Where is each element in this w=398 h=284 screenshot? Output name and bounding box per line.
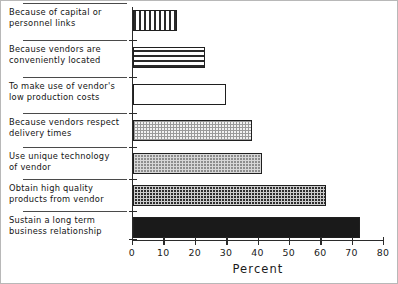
- category-label: Because of capital or personnel links: [9, 7, 130, 30]
- category-divider: [23, 179, 127, 180]
- category-divider: [23, 3, 127, 4]
- x-axis-tick-label: 80: [377, 247, 390, 258]
- bar-high-quality-products: [133, 185, 326, 206]
- y-axis-tick: [129, 147, 137, 148]
- category-label-column: Because of capital or personnel links Be…: [1, 1, 132, 246]
- category-row: Because vendors are conveniently located: [1, 40, 132, 74]
- plot-area: [132, 1, 387, 246]
- x-axis-tick: [320, 237, 321, 245]
- x-axis-tick: [352, 237, 353, 245]
- category-row: To make use of vendor's low production c…: [1, 77, 132, 111]
- x-axis-title: Percent: [132, 262, 384, 276]
- category-row: Because of capital or personnel links: [1, 3, 132, 37]
- bar-unique-technology: [133, 153, 262, 174]
- x-axis-tick: [163, 237, 164, 245]
- x-axis-tick: [258, 237, 259, 245]
- category-divider: [23, 147, 127, 148]
- category-row: Because vendors respect delivery times: [1, 113, 132, 147]
- x-axis: 01020304050607080 Percent: [132, 240, 388, 284]
- bar-long-term-relationship: [133, 217, 360, 238]
- bar-chart: Because of capital or personnel links Be…: [0, 0, 398, 284]
- category-label: Use unique technology of vendor: [9, 151, 130, 174]
- x-axis-tick-label: 10: [157, 247, 170, 258]
- category-label: Sustain a long term business relationshi…: [9, 215, 130, 238]
- x-axis-tick-label: 40: [251, 247, 264, 258]
- category-label: Because vendors respect delivery times: [9, 117, 130, 140]
- x-axis-tick: [132, 237, 133, 245]
- x-axis-tick-label: 70: [345, 247, 358, 258]
- category-divider: [23, 211, 127, 212]
- x-axis-tick-label: 20: [188, 247, 201, 258]
- y-axis-tick: [129, 113, 137, 114]
- y-axis-tick: [129, 211, 137, 212]
- x-axis-tick-label: 50: [283, 247, 296, 258]
- y-axis-tick: [129, 179, 137, 180]
- x-axis-tick-label: 30: [220, 247, 233, 258]
- category-divider: [23, 77, 127, 78]
- x-axis-tick: [195, 237, 196, 245]
- category-divider: [23, 40, 127, 41]
- bar-conveniently-located: [133, 47, 205, 68]
- x-axis-tick-label: 0: [129, 247, 135, 258]
- category-row: Use unique technology of vendor: [1, 147, 132, 181]
- x-axis-tick: [383, 237, 384, 245]
- category-label: Because vendors are conveniently located: [9, 44, 130, 67]
- category-label: Obtain high quality products from vendor: [9, 183, 130, 206]
- category-row: Obtain high quality products from vendor: [1, 179, 132, 213]
- y-axis-tick: [129, 40, 137, 41]
- bar-capital-personnel-links: [133, 10, 177, 31]
- x-axis-tick: [289, 237, 290, 245]
- category-label: To make use of vendor's low production c…: [9, 81, 130, 104]
- category-divider: [23, 113, 127, 114]
- x-axis-tick-label: 60: [314, 247, 327, 258]
- category-row: Sustain a long term business relationshi…: [1, 211, 132, 245]
- bar-low-production-costs: [133, 84, 226, 105]
- x-axis-tick: [226, 237, 227, 245]
- y-axis-tick: [129, 77, 137, 78]
- bar-respect-delivery-times: [133, 120, 252, 141]
